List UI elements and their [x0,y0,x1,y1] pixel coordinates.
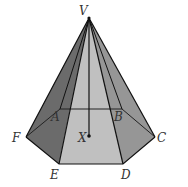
label-F: F [11,131,21,145]
label-C: C [157,131,166,145]
label-E: E [49,168,59,182]
label-A: A [50,110,60,124]
label-D: D [120,168,131,182]
label-B: B [113,110,123,124]
label-V: V [79,4,89,18]
pyramid-diagram: V A B C D E F X [0,0,188,187]
label-X: X [77,131,87,145]
point-X [87,134,91,138]
point-V [87,16,90,19]
